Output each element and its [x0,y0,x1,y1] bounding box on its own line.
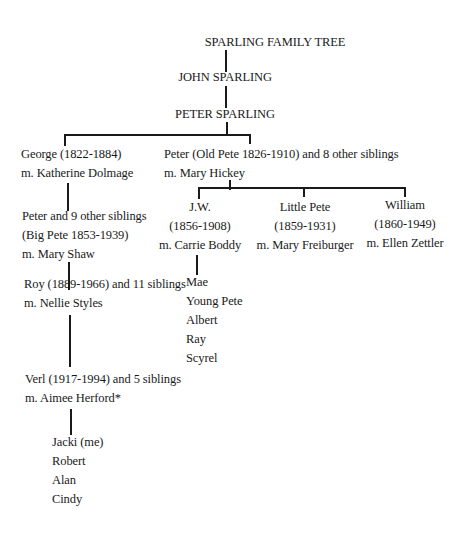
connector-line [196,255,198,275]
person-george-name: George (1822-1884) [21,145,133,164]
person-old-pete: Peter (Old Pete 1826-1910) and 8 other s… [164,145,399,183]
person-little-pete: Little Pete (1859-1931) m. Mary Freiburg… [250,198,360,255]
branch-line [64,134,251,136]
person-big-pete: Peter and 9 other siblings (Big Pete 185… [22,207,146,264]
person-jw-name: J.W. [155,198,245,217]
person-george-spouse: m. Katherine Dolmage [21,164,133,183]
person-verl: Verl (1917-1994) and 5 siblings m. Aimee… [25,370,181,408]
person-big-pete-line2: (Big Pete 1853-1939) [22,226,146,245]
child-young-pete: Young Pete [186,292,242,311]
branch-line [198,187,406,189]
person-peter-sparling: PETER SPARLING [165,105,285,124]
child-mae: Mae [186,273,242,292]
person-john-sparling: JOHN SPARLING [170,68,280,87]
child-alan: Alan [52,471,103,490]
person-verl-name: Verl (1917-1994) and 5 siblings [25,370,181,389]
connector-line [249,134,251,144]
person-roy: Roy (1889-1966) and 11 siblings m. Nelli… [24,275,186,313]
person-little-pete-dates: (1859-1931) [250,217,360,236]
person-roy-spouse: m. Nellie Styles [24,294,186,313]
person-verl-spouse: m. Aimee Herford* [25,389,181,408]
person-big-pete-spouse: m. Mary Shaw [22,245,146,264]
child-scyrel: Scyrel [186,349,242,368]
person-jw: J.W. (1856-1908) m. Carrie Boddy [155,198,245,255]
person-old-pete-spouse: m. Mary Hickey [164,164,399,183]
connector-line [70,409,72,435]
person-big-pete-line1: Peter and 9 other siblings [22,207,146,226]
person-old-pete-name: Peter (Old Pete 1826-1910) and 8 other s… [164,145,399,164]
person-little-pete-spouse: m. Mary Freiburger [250,236,360,255]
connector-line [303,187,305,197]
connector-line [69,315,71,367]
person-jw-spouse: m. Carrie Boddy [155,236,245,255]
person-william-spouse: m. Ellen Zettler [355,234,455,253]
person-william-dates: (1860-1949) [355,215,455,234]
child-robert: Robert [52,452,103,471]
verl-children-list: Jacki (me) Robert Alan Cindy [52,433,103,509]
child-ray: Ray [186,330,242,349]
child-cindy: Cindy [52,490,103,509]
person-william: William (1860-1949) m. Ellen Zettler [355,196,455,253]
person-george: George (1822-1884) m. Katherine Dolmage [21,145,133,183]
person-little-pete-name: Little Pete [250,198,360,217]
child-jacki: Jacki (me) [52,433,103,452]
jw-children-list: Mae Young Pete Albert Ray Scyrel [186,273,242,368]
person-jw-dates: (1856-1908) [155,217,245,236]
tree-title: SPARLING FAMILY TREE [180,33,370,52]
child-albert: Albert [186,311,242,330]
person-william-name: William [355,196,455,215]
person-roy-name: Roy (1889-1966) and 11 siblings [24,275,186,294]
